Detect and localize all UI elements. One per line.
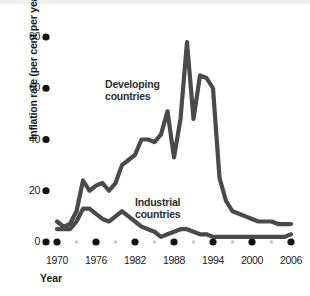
y-axis-major-ticks bbox=[42, 33, 49, 245]
x-axis-major-ticks bbox=[53, 238, 294, 245]
inflation-rate-chart: Inflation rate (per cent per year) 80 60… bbox=[0, 0, 310, 296]
plot-area bbox=[0, 0, 310, 296]
data-line-industrial-countries bbox=[57, 209, 291, 237]
data-line-developing-countries bbox=[57, 42, 291, 227]
